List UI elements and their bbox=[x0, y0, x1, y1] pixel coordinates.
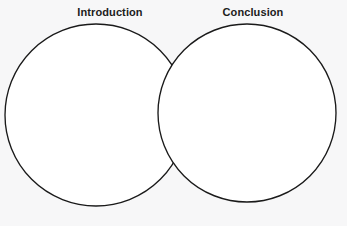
venn-diagram-canvas: Introduction Conclusion bbox=[0, 0, 347, 226]
venn-label-left: Introduction bbox=[77, 6, 142, 18]
venn-circle-right[interactable] bbox=[158, 24, 336, 202]
venn-label-right: Conclusion bbox=[223, 6, 284, 18]
venn-diagram-graphic bbox=[0, 0, 347, 226]
